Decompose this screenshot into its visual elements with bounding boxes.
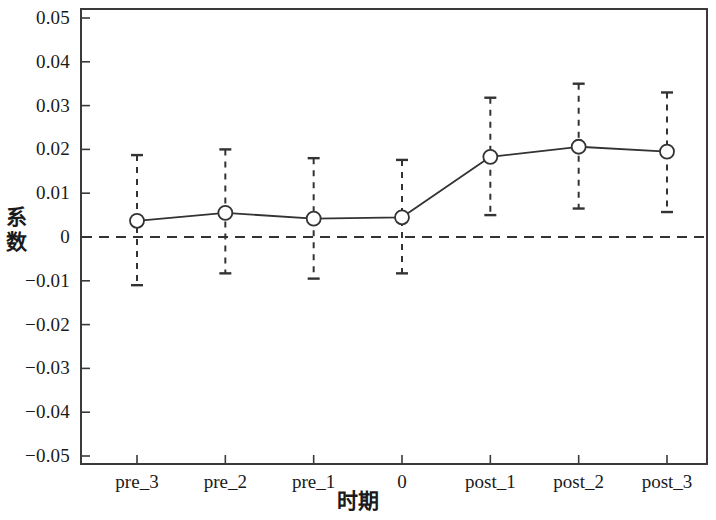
error-bars-group: [131, 84, 673, 285]
data-point-marker: [130, 214, 144, 228]
data-point-marker: [307, 212, 321, 226]
coefficient-event-study-chart: 系 数 时期 0.050.040.030.020.010−0.01−0.02−0…: [0, 0, 716, 520]
data-point-marker: [572, 140, 586, 154]
chart-vector-layer: [0, 0, 716, 520]
data-point-marker: [483, 150, 497, 164]
data-point-marker: [395, 210, 409, 224]
data-point-marker: [660, 145, 674, 159]
x-axis-ticks: [137, 455, 667, 464]
data-point-marker: [218, 206, 232, 220]
